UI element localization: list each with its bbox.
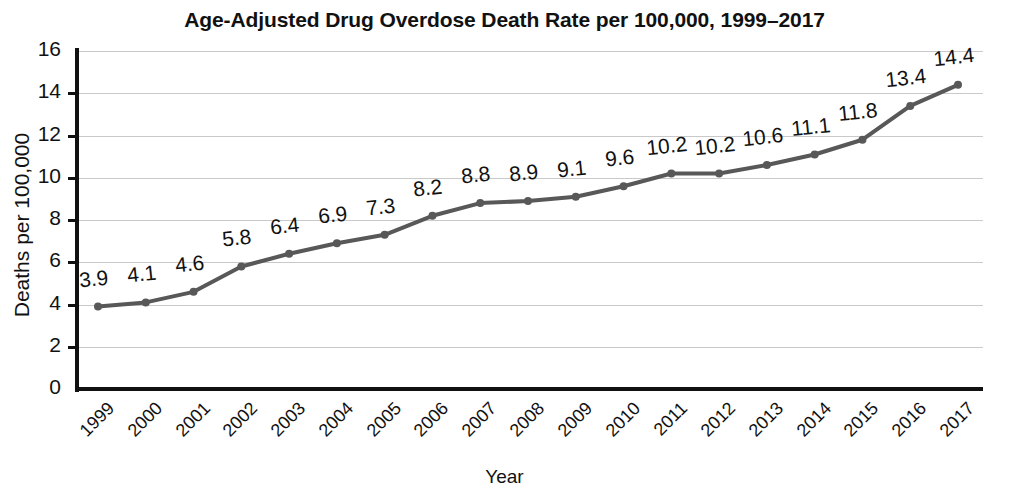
x-tick-label: 2016 bbox=[879, 398, 931, 450]
x-tick-label: 2013 bbox=[736, 398, 788, 450]
x-tick-label: 2009 bbox=[545, 398, 597, 450]
x-tick-label: 2002 bbox=[211, 398, 263, 450]
x-tick-label: 2014 bbox=[784, 398, 836, 450]
y-tick-label: 0 bbox=[3, 375, 61, 399]
x-tick-label: 2010 bbox=[593, 398, 645, 450]
y-tick-mark bbox=[68, 346, 77, 349]
y-tick-mark bbox=[68, 135, 77, 138]
x-axis-title: Year bbox=[0, 466, 1009, 488]
x-axis-line bbox=[75, 387, 983, 391]
y-tick-label: 8 bbox=[3, 206, 61, 230]
x-tick-label: 2001 bbox=[163, 398, 215, 450]
gridline bbox=[78, 347, 983, 348]
y-tick-mark bbox=[68, 177, 77, 180]
y-tick-label: 16 bbox=[3, 37, 61, 61]
gridline bbox=[78, 136, 983, 137]
y-tick-label: 10 bbox=[3, 164, 61, 188]
y-tick-mark bbox=[68, 92, 77, 95]
y-tick-label: 2 bbox=[3, 333, 61, 357]
chart-container: Age-Adjusted Drug Overdose Death Rate pe… bbox=[0, 0, 1009, 504]
y-tick-label: 6 bbox=[3, 248, 61, 272]
x-tick-label: 2008 bbox=[497, 398, 549, 450]
x-tick-label: 2004 bbox=[306, 398, 358, 450]
x-tick-label: 2006 bbox=[402, 398, 454, 450]
y-tick-mark bbox=[68, 219, 77, 222]
x-tick-label: 2000 bbox=[115, 398, 167, 450]
gridline bbox=[78, 305, 983, 306]
x-tick-label: 2011 bbox=[641, 398, 693, 450]
x-tick-label: 2015 bbox=[832, 398, 884, 450]
x-tick-label: 2012 bbox=[688, 398, 740, 450]
gridline bbox=[78, 220, 983, 221]
y-tick-label: 12 bbox=[3, 122, 61, 146]
x-tick-label: 2007 bbox=[449, 398, 501, 450]
x-tick-label: 2003 bbox=[258, 398, 310, 450]
gridline bbox=[78, 51, 983, 52]
y-tick-mark bbox=[68, 261, 77, 264]
y-tick-label: 4 bbox=[3, 291, 61, 315]
chart-title: Age-Adjusted Drug Overdose Death Rate pe… bbox=[0, 8, 1009, 32]
y-tick-label: 14 bbox=[3, 79, 61, 103]
x-tick-label: 2005 bbox=[354, 398, 406, 450]
x-tick-label: 1999 bbox=[67, 398, 119, 450]
x-tick-label: 2017 bbox=[927, 398, 979, 450]
y-tick-mark bbox=[68, 304, 77, 307]
gridline bbox=[78, 93, 983, 94]
